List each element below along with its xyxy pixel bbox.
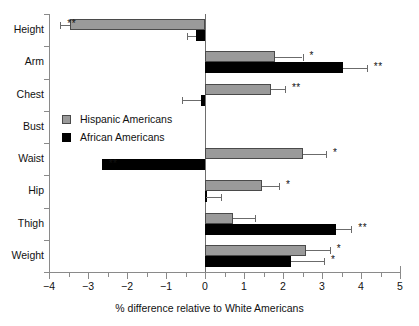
significance-marker-hip-hispanic: *	[286, 180, 290, 190]
x-axis-tick	[49, 272, 50, 279]
significance-marker-thigh-african: **	[358, 223, 367, 233]
x-axis-minor-tick	[147, 272, 148, 277]
x-axis-tick-label: 1	[229, 280, 259, 292]
y-axis-label-hip: Hip	[0, 185, 44, 196]
y-axis-label-height: Height	[0, 24, 44, 35]
x-axis-tick-label: 0	[190, 280, 220, 292]
x-axis-minor-tick	[303, 272, 304, 277]
x-axis-minor-tick	[186, 272, 187, 277]
error-bar-cap	[221, 194, 222, 201]
error-bar-weight-african	[291, 261, 324, 262]
error-bar-cap	[187, 33, 188, 40]
error-bar-hip-hispanic	[262, 186, 280, 187]
significance-marker-waist-african: **	[109, 159, 118, 169]
x-axis-tick-label: −4	[34, 280, 64, 292]
x-axis-minor-tick	[108, 272, 109, 277]
x-axis-tick	[205, 272, 206, 279]
x-axis-tick-label: −2	[112, 280, 142, 292]
y-axis-label-bust: Bust	[0, 121, 44, 132]
bar-weight-african	[205, 256, 291, 267]
y-axis-label-arm: Arm	[0, 56, 44, 67]
x-axis-tick-label: 5	[385, 280, 415, 292]
error-bar-cap	[303, 54, 304, 61]
x-axis-tick	[127, 272, 128, 279]
x-axis-tick	[244, 272, 245, 279]
bar-thigh-african	[205, 224, 336, 235]
error-bar-cap	[326, 151, 327, 158]
error-bar-cap	[367, 65, 368, 72]
black-square-icon	[62, 133, 71, 142]
significance-marker-arm-african: **	[374, 62, 383, 72]
x-axis-tick	[400, 272, 401, 279]
y-axis-label-waist: Waist	[0, 153, 44, 164]
error-bar-cap	[351, 226, 352, 233]
bar-arm-hispanic	[205, 51, 275, 62]
significance-marker-arm-hispanic: *	[310, 51, 314, 61]
x-axis-minor-tick	[381, 272, 382, 277]
bar-weight-hispanic	[205, 245, 306, 256]
legend-item-hispanic: Hispanic Americans	[62, 110, 172, 128]
legend-item-label: African Americans	[80, 128, 165, 146]
x-axis-minor-tick	[69, 272, 70, 277]
significance-marker-weight-hispanic: *	[337, 244, 341, 254]
gray-square-icon	[62, 115, 71, 124]
error-bar-cap	[279, 183, 280, 190]
error-bar-weight-hispanic	[306, 250, 329, 251]
x-axis-tick-label: −1	[151, 280, 181, 292]
bar-hip-hispanic	[205, 180, 262, 191]
x-axis-tick-label: 4	[346, 280, 376, 292]
x-axis-tick-label: 3	[307, 280, 337, 292]
error-bar-cap	[324, 258, 325, 265]
x-axis-tick	[88, 272, 89, 279]
y-axis-label-weight: Weight	[0, 250, 44, 261]
legend-item-african: African Americans	[62, 128, 172, 146]
error-bar-hip-african	[206, 197, 221, 198]
significance-marker-chest-hispanic: **	[292, 83, 301, 93]
x-axis-minor-tick	[342, 272, 343, 277]
error-bar-cap	[285, 86, 286, 93]
error-bar-cap	[60, 22, 61, 29]
bar-arm-african	[205, 62, 343, 73]
significance-marker-height-hispanic: **	[67, 19, 76, 29]
x-axis-tick	[166, 272, 167, 279]
error-bar-arm-hispanic	[275, 57, 302, 58]
x-axis-tick-label: −3	[73, 280, 103, 292]
bar-thigh-hispanic	[205, 213, 233, 224]
legend-item-label: Hispanic Americans	[80, 110, 172, 128]
error-bar-cap	[330, 247, 331, 254]
bar-chest-african	[201, 95, 205, 106]
bar-chest-hispanic	[205, 84, 271, 95]
error-bar-arm-african	[343, 68, 366, 69]
x-axis-minor-tick	[264, 272, 265, 277]
y-axis-label-chest: Chest	[0, 89, 44, 100]
x-axis-tick-label: 2	[268, 280, 298, 292]
error-bar-cap	[255, 215, 256, 222]
error-bar-chest-african	[182, 100, 202, 101]
x-axis-tick	[283, 272, 284, 279]
bar-waist-hispanic	[205, 148, 303, 159]
x-axis-tick	[322, 272, 323, 279]
bar-height-african	[196, 30, 205, 41]
error-bar-waist-hispanic	[303, 154, 326, 155]
error-bar-cap	[182, 97, 183, 104]
error-bar-height-african	[187, 36, 196, 37]
significance-marker-waist-hispanic: *	[333, 148, 337, 158]
bar-height-hispanic	[70, 19, 205, 30]
y-axis-labels: HeightArmChestBustWaistHipThighWeight	[0, 14, 44, 272]
significance-marker-weight-african: *	[331, 255, 335, 265]
x-axis-minor-tick	[225, 272, 226, 277]
y-axis-label-thigh: Thigh	[0, 218, 44, 229]
legend: Hispanic Americans African Americans	[62, 110, 172, 146]
error-bar-chest-hispanic	[271, 89, 285, 90]
bar-chart: HeightArmChestBustWaistHipThighWeight −4…	[0, 0, 419, 326]
x-axis-title: % difference relative to White Americans	[0, 302, 419, 314]
error-bar-thigh-african	[336, 229, 352, 230]
x-axis-tick	[361, 272, 362, 279]
error-bar-thigh-hispanic	[233, 218, 254, 219]
